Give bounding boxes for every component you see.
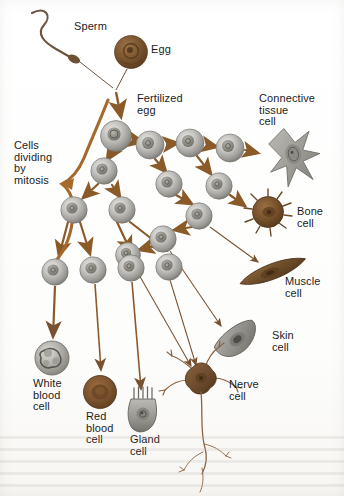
- cell-c10: [150, 226, 176, 252]
- egg-cell: [115, 36, 148, 69]
- dividing-cells-group: [42, 121, 244, 286]
- bone-cell: [244, 189, 292, 236]
- cell-c9: [186, 203, 212, 229]
- cell-c7: [61, 197, 87, 223]
- cell-c15: [156, 254, 182, 280]
- nerve-cell: [159, 341, 242, 492]
- cell-c1: [136, 131, 164, 159]
- label-bone-cell: Bone cell: [297, 206, 323, 229]
- label-gland-cell: Gland cell: [130, 434, 160, 457]
- sperm-cell: [32, 11, 82, 66]
- label-muscle-cell: Muscle cell: [285, 276, 320, 299]
- label-white-blood-cell: White blood cell: [33, 378, 62, 413]
- gland-cell: [128, 387, 156, 432]
- cell-c2: [176, 129, 204, 157]
- label-nerve-cell: Nerve cell: [229, 379, 259, 402]
- label-sperm: Sperm: [74, 21, 107, 33]
- label-connective-tissue-cell: Connective tissue cell: [259, 93, 315, 128]
- white-blood-cell: [35, 341, 69, 375]
- cell-zygote: [101, 121, 132, 152]
- cell-c3: [216, 134, 244, 162]
- label-egg: Egg: [151, 44, 171, 56]
- label-fertilized-egg: Fertilized egg: [137, 93, 183, 116]
- diagram-svg: [0, 0, 344, 496]
- label-mitosis: Cells dividing by mitosis: [14, 140, 52, 186]
- diagram-canvas: Sperm Egg Fertilized egg Cells dividing …: [0, 0, 344, 496]
- cell-c6: [206, 173, 232, 199]
- label-skin-cell: Skin cell: [272, 330, 294, 353]
- cell-c4: [91, 158, 117, 184]
- cell-c14: [118, 255, 144, 281]
- connective-tissue-cell: [262, 122, 325, 190]
- differentiation-arrows: [53, 227, 258, 389]
- cell-c12: [42, 259, 68, 285]
- red-blood-cell: [84, 376, 117, 409]
- cell-c8: [109, 197, 135, 223]
- label-red-blood-cell: Red blood cell: [86, 411, 113, 446]
- cell-c5: [156, 171, 182, 197]
- cell-c13: [80, 257, 106, 283]
